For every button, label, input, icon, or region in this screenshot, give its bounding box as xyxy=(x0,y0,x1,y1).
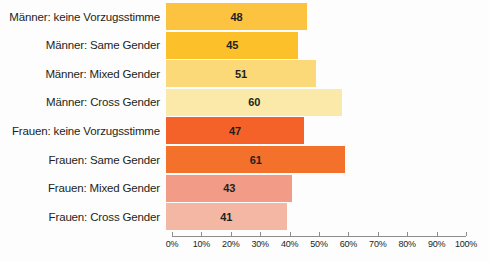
bar-track: 51 xyxy=(166,60,489,87)
chart-plot-area: Männer: keine Vorzugsstimme48Männer: Sam… xyxy=(0,0,489,232)
x-axis-tick xyxy=(201,232,202,236)
x-axis-tick xyxy=(466,232,467,236)
x-axis-tick xyxy=(378,232,379,236)
chart-row: Frauen: Cross Gender41 xyxy=(0,203,489,230)
chart-row: Männer: keine Vorzugsstimme48 xyxy=(0,3,489,30)
x-axis-tick-label: 20% xyxy=(222,239,239,249)
x-axis-tick-label: 60% xyxy=(340,239,357,249)
chart-row: Männer: Cross Gender60 xyxy=(0,89,489,116)
bar-value-label: 51 xyxy=(235,68,247,80)
bar-track: 41 xyxy=(166,203,489,230)
x-axis-tick-label: 90% xyxy=(428,239,445,249)
bar-value-label: 61 xyxy=(250,154,262,166)
x-axis-line xyxy=(172,236,466,237)
x-axis-tick xyxy=(348,232,349,236)
x-axis-tick xyxy=(290,232,291,236)
x-axis-tick xyxy=(260,232,261,236)
x-axis-tick xyxy=(172,232,173,236)
bar: 43 xyxy=(166,175,292,202)
chart-row: Frauen: Mixed Gender43 xyxy=(0,175,489,202)
x-axis-tick-label: 100% xyxy=(455,239,477,249)
bar-value-label: 43 xyxy=(223,182,235,194)
bar: 61 xyxy=(166,146,345,173)
x-axis: 0%10%20%30%40%50%60%70%80%90%100% xyxy=(172,236,466,261)
x-axis-tick-label: 0% xyxy=(166,239,179,249)
bar-value-label: 47 xyxy=(229,125,241,137)
category-label: Frauen: Same Gender xyxy=(0,154,166,166)
chart-row: Frauen: Same Gender61 xyxy=(0,146,489,173)
category-label: Männer: Mixed Gender xyxy=(0,68,166,80)
bar-value-label: 48 xyxy=(231,11,243,23)
bar: 41 xyxy=(166,203,287,230)
bar-value-label: 41 xyxy=(220,211,232,223)
x-axis-tick xyxy=(319,232,320,236)
bar-value-label: 45 xyxy=(226,39,238,51)
category-label: Männer: Cross Gender xyxy=(0,96,166,108)
bar: 60 xyxy=(166,89,342,116)
x-axis-tick-label: 10% xyxy=(193,239,210,249)
x-axis-tick-label: 30% xyxy=(251,239,268,249)
x-axis-tick-label: 50% xyxy=(310,239,327,249)
x-axis-tick-label: 40% xyxy=(281,239,298,249)
category-label: Männer: Same Gender xyxy=(0,39,166,51)
bar-track: 60 xyxy=(166,89,489,116)
x-axis-tick xyxy=(437,232,438,236)
chart-row: Männer: Mixed Gender51 xyxy=(0,60,489,87)
category-label: Frauen: Cross Gender xyxy=(0,211,166,223)
chart-row: Männer: Same Gender45 xyxy=(0,32,489,59)
bar-chart: Männer: keine Vorzugsstimme48Männer: Sam… xyxy=(0,0,489,261)
category-label: Frauen: keine Vorzugsstimme xyxy=(0,125,166,137)
bar: 48 xyxy=(166,3,307,30)
bar-value-label: 60 xyxy=(248,96,260,108)
bar: 51 xyxy=(166,60,316,87)
category-label: Männer: keine Vorzugsstimme xyxy=(0,11,166,23)
bar-track: 61 xyxy=(166,146,489,173)
category-label: Frauen: Mixed Gender xyxy=(0,182,166,194)
x-axis-tick xyxy=(407,232,408,236)
bar: 47 xyxy=(166,117,304,144)
chart-row: Frauen: keine Vorzugsstimme47 xyxy=(0,117,489,144)
bar-track: 48 xyxy=(166,3,489,30)
bar-track: 43 xyxy=(166,175,489,202)
x-axis-tick-label: 70% xyxy=(369,239,386,249)
x-axis-tick xyxy=(231,232,232,236)
bar-track: 45 xyxy=(166,32,489,59)
bar-track: 47 xyxy=(166,117,489,144)
bar: 45 xyxy=(166,32,298,59)
x-axis-tick-label: 80% xyxy=(398,239,415,249)
